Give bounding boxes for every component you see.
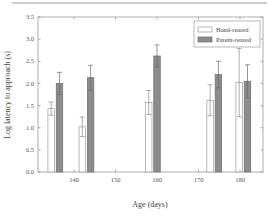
- bar: [56, 83, 63, 172]
- y-tick-label: 2.5: [26, 57, 34, 64]
- x-tick-label: 140: [69, 176, 79, 183]
- legend-label: Hand-reared: [216, 26, 249, 33]
- y-tick-label: 3.0: [26, 35, 34, 42]
- legend-label: Parent-reared: [216, 36, 252, 43]
- bar: [87, 78, 94, 172]
- y-tick-label: 0.5: [26, 146, 34, 153]
- x-tick-label: 180: [235, 176, 245, 183]
- legend-swatch: [198, 37, 212, 42]
- y-tick-label: 0.0: [26, 168, 34, 175]
- legend-box: [194, 21, 260, 47]
- x-axis-label: Age (days): [132, 200, 168, 209]
- x-tick-label: 160: [152, 176, 162, 183]
- y-axis-label: Log latency to approach (s): [3, 51, 12, 139]
- y-tick-label: 3.5: [26, 13, 34, 20]
- legend-swatch: [198, 27, 212, 32]
- y-tick-label: 1.0: [26, 124, 34, 131]
- bar: [154, 56, 161, 172]
- x-tick-label: 170: [194, 176, 204, 183]
- series-hand-reared: [48, 48, 242, 172]
- y-tick-label: 1.5: [26, 102, 34, 109]
- x-tick-label: 150: [111, 176, 121, 183]
- y-tick-label: 2.0: [26, 80, 34, 87]
- bar-chart: 140150160170180 0.00.51.01.52.02.53.03.5…: [0, 0, 277, 218]
- bar: [48, 109, 55, 172]
- legend: Hand-rearedParent-reared: [194, 21, 260, 47]
- bar: [215, 75, 222, 172]
